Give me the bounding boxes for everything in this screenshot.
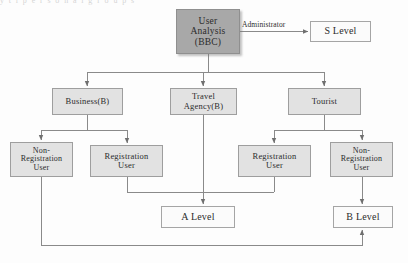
node-user-analysis[interactable]: User Analysis (BBC) xyxy=(176,9,240,54)
node-non-registration-user-right[interactable]: Non- Registration User xyxy=(330,142,393,177)
node-a-level[interactable]: A Level xyxy=(161,206,235,228)
node-a-level-label: A Level xyxy=(180,212,215,223)
node-tourist-label: Tourist xyxy=(311,97,338,106)
node-registration-user-left[interactable]: Registration User xyxy=(90,145,163,177)
node-b-level[interactable]: B Level xyxy=(333,206,393,228)
node-non-registration-user-left-label: Non- Registration User xyxy=(20,147,64,173)
node-travel-agency-b[interactable]: Travel Agency(B) xyxy=(170,88,237,115)
node-registration-user-right[interactable]: Registration User xyxy=(238,145,311,177)
node-registration-user-right-label: Registration User xyxy=(252,152,298,170)
node-b-level-label: B Level xyxy=(345,212,380,223)
flowchart-canvas: y t i p e r s o n a l g r o u p s xyxy=(0,0,408,263)
node-business-b-label: Business(B) xyxy=(65,97,111,106)
node-user-analysis-label: User Analysis (BBC) xyxy=(190,16,227,47)
node-s-level[interactable]: S Level xyxy=(310,21,371,42)
node-non-registration-user-right-label: Non- Registration User xyxy=(340,147,384,173)
node-tourist[interactable]: Tourist xyxy=(288,88,361,115)
node-business-b[interactable]: Business(B) xyxy=(52,88,123,115)
node-travel-agency-b-label: Travel Agency(B) xyxy=(183,92,225,110)
page-top-artifact-strip: y t i p e r s o n a l g r o u p s xyxy=(0,0,408,9)
node-non-registration-user-left[interactable]: Non- Registration User xyxy=(10,142,73,177)
edge-label-administrator: Administrator xyxy=(242,20,285,29)
node-s-level-label: S Level xyxy=(323,26,357,37)
page-top-artifact-text: y t i p e r s o n a l g r o u p s xyxy=(0,0,408,5)
node-registration-user-left-label: Registration User xyxy=(104,152,150,170)
